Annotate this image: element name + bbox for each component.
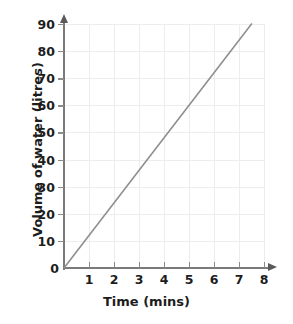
gridline-vertical — [89, 24, 90, 268]
x-axis-tick-label: 7 — [228, 272, 250, 287]
x-axis-tick — [114, 262, 115, 268]
gridline-vertical — [164, 24, 165, 268]
gridline-horizontal — [64, 160, 264, 161]
gridline-horizontal — [64, 105, 264, 106]
gridline-horizontal — [64, 241, 264, 242]
y-axis-tick-label: 90 — [29, 17, 55, 32]
gridline-horizontal — [64, 214, 264, 215]
x-axis-tick-label: 6 — [203, 272, 225, 287]
y-axis-arrow-icon — [60, 14, 68, 23]
x-axis-tick-label: 8 — [253, 272, 275, 287]
y-axis-tick — [58, 214, 64, 215]
gridline-horizontal — [64, 78, 264, 79]
x-axis-tick-label: 1 — [78, 272, 100, 287]
x-axis-tick-label: 4 — [153, 272, 175, 287]
gridline-horizontal — [64, 24, 264, 25]
y-axis-tick — [58, 24, 64, 25]
x-axis-tick-label: 5 — [178, 272, 200, 287]
gridline-vertical — [264, 24, 265, 268]
x-axis-tick-label: 3 — [128, 272, 150, 287]
line-chart: 12345678102030405060708090 0 Time (mins)… — [0, 0, 293, 324]
gridline-horizontal — [64, 132, 264, 133]
x-axis-tick — [214, 262, 215, 268]
gridline-vertical — [139, 24, 140, 268]
y-axis-tick — [58, 51, 64, 52]
y-axis-line — [63, 22, 65, 270]
y-axis-tick — [58, 160, 64, 161]
x-axis-tick — [139, 262, 140, 268]
x-axis-tick — [164, 262, 165, 268]
y-axis-tick — [58, 78, 64, 79]
gridline-vertical — [239, 24, 240, 268]
x-axis-tick — [239, 262, 240, 268]
gridline-vertical — [189, 24, 190, 268]
plot-area — [64, 24, 264, 268]
gridline-vertical — [114, 24, 115, 268]
y-axis-tick — [58, 132, 64, 133]
x-axis-tick — [89, 262, 90, 268]
gridline-horizontal — [64, 187, 264, 188]
x-axis-tick — [189, 262, 190, 268]
x-axis-tick-label: 2 — [103, 272, 125, 287]
y-axis-title: Volume of water (litres) — [30, 35, 45, 265]
x-axis-arrow-icon — [268, 263, 277, 271]
y-axis-tick — [58, 241, 64, 242]
y-axis-tick — [58, 187, 64, 188]
y-axis-tick — [58, 105, 64, 106]
gridline-vertical — [214, 24, 215, 268]
x-axis-title: Time (mins) — [0, 294, 293, 309]
x-axis-tick — [264, 262, 265, 268]
gridline-horizontal — [64, 51, 264, 52]
